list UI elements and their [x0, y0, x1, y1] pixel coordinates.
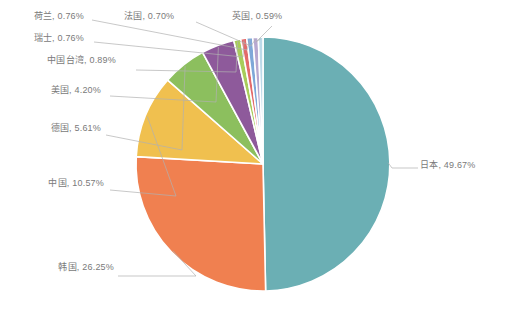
slice-label-china: 中国, 10.57%: [6, 178, 104, 189]
slice-label-uk: 英国, 0.59%: [232, 11, 322, 22]
slice-label-taiwan: 中国台湾, 0.89%: [6, 55, 116, 66]
pie-slice[interactable]: [136, 157, 266, 291]
slice-label-japan: 日本, 49.67%: [420, 160, 508, 171]
slice-label-germany: 德国, 5.61%: [6, 123, 101, 134]
pie-slice-group: [136, 37, 390, 291]
slice-label-france: 法国, 0.70%: [124, 11, 214, 22]
leader-line: [388, 163, 418, 168]
slice-label-usa: 美国, 4.20%: [6, 85, 101, 96]
slice-label-switzerland: 瑞士, 0.76%: [6, 33, 84, 44]
slice-label-netherlands: 荷兰, 0.76%: [6, 11, 84, 22]
pie-slice[interactable]: [263, 37, 390, 291]
pie-chart: 荷兰, 0.76% 瑞士, 0.76% 中国台湾, 0.89% 美国, 4.20…: [0, 0, 508, 315]
slice-label-korea: 韩国, 26.25%: [6, 262, 114, 273]
